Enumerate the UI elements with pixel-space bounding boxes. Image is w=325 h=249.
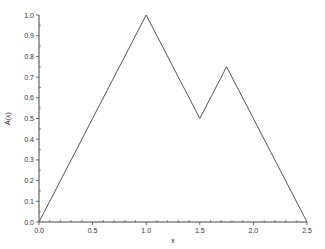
- x-tick-label: 1.5: [195, 227, 205, 234]
- y-tick-label: 0.1: [24, 198, 34, 205]
- x-tick-label: 2.5: [302, 227, 312, 234]
- y-tick-label: 0.2: [24, 177, 34, 184]
- y-tick-label: 1.0: [24, 12, 34, 19]
- x-tick-label: 2.0: [249, 227, 259, 234]
- y-axis-label: A(x): [4, 112, 12, 125]
- line-chart: 0.00.10.20.30.40.50.60.70.80.91.00.00.51…: [0, 0, 325, 249]
- y-tick-label: 0.5: [24, 115, 34, 122]
- y-tick-label: 0.7: [24, 74, 34, 81]
- axes: 0.00.10.20.30.40.50.60.70.80.91.00.00.51…: [24, 12, 312, 235]
- x-axis-label: x: [171, 237, 175, 244]
- y-tick-label: 0.3: [24, 156, 34, 163]
- x-tick-label: 0.0: [34, 227, 44, 234]
- y-tick-label: 0.9: [24, 32, 34, 39]
- y-tick-label: 0.8: [24, 53, 34, 60]
- y-tick-label: 0.6: [24, 94, 34, 101]
- x-tick-label: 1.0: [141, 227, 151, 234]
- y-tick-label: 0.0: [24, 219, 34, 226]
- series-line: [39, 15, 307, 222]
- series-layer: [39, 15, 307, 222]
- x-tick-label: 0.5: [88, 227, 98, 234]
- y-tick-label: 0.4: [24, 136, 34, 143]
